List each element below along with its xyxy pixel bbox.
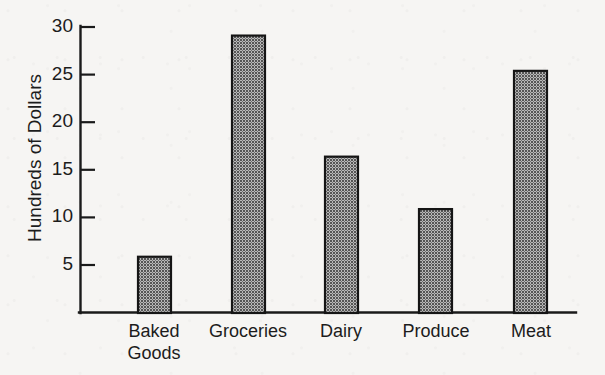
x-label-baked-goods-line2: Goods — [127, 343, 180, 363]
bar-baked-goods[interactable] — [138, 257, 171, 313]
bar-groceries[interactable] — [232, 36, 265, 313]
y-tick-label-20: 20 — [52, 110, 73, 131]
bar-chart: Hundreds of Dollars 5 10 15 20 25 30 — [0, 0, 605, 375]
y-tick-label-30: 30 — [52, 15, 73, 36]
x-label-baked-goods-line1: Baked — [128, 321, 179, 341]
y-tick-label-5: 5 — [62, 253, 73, 274]
x-label-meat: Meat — [511, 321, 551, 341]
y-axis-tick-labels: 5 10 15 20 25 30 — [52, 15, 73, 274]
y-tick-label-15: 15 — [52, 158, 73, 179]
x-label-groceries: Groceries — [209, 321, 287, 341]
y-axis-title: Hundreds of Dollars — [24, 74, 45, 242]
y-tick-label-10: 10 — [52, 205, 73, 226]
x-label-dairy: Dairy — [320, 321, 362, 341]
y-axis-title-text: Hundreds of Dollars — [24, 74, 45, 242]
bar-dairy[interactable] — [325, 157, 358, 313]
chart-page: Hundreds of Dollars 5 10 15 20 25 30 — [0, 0, 605, 375]
y-axis-ticks — [81, 27, 95, 265]
x-axis-category-labels: Baked Goods Groceries Dairy Produce Meat — [127, 321, 551, 363]
bars — [138, 36, 547, 313]
bar-produce[interactable] — [419, 209, 452, 313]
y-tick-label-25: 25 — [52, 63, 73, 84]
x-label-produce: Produce — [402, 321, 469, 341]
bar-meat[interactable] — [514, 71, 547, 313]
